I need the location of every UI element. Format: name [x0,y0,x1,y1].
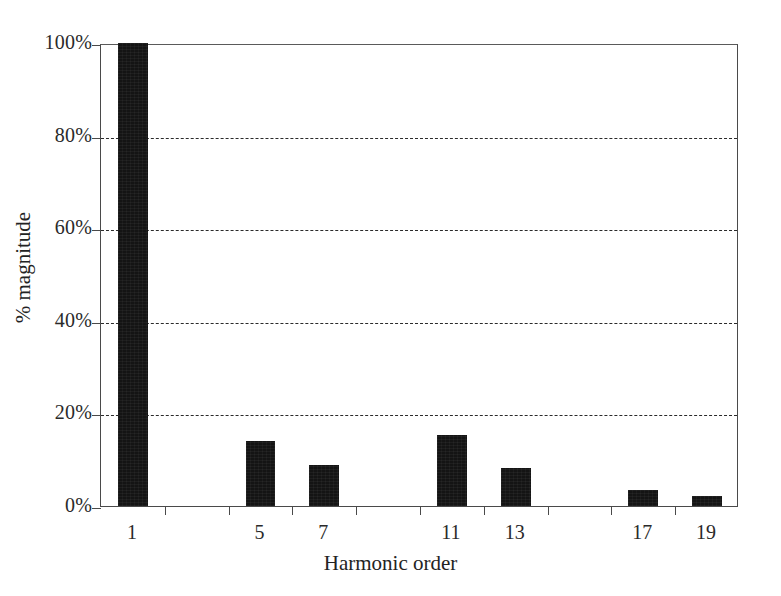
x-axis-tick-label: 19 [666,521,746,544]
x-axis-tick-label: 7 [283,521,363,544]
x-axis-title: Harmonic order [0,551,781,576]
x-axis-tick-labels: 15711131719 [0,0,781,596]
harmonic-spectrum-bar-chart: 0%20%40%60%80%100% 15711131719 Harmonic … [0,0,781,596]
y-axis-title: % magnitude [11,168,36,368]
x-axis-tick-label: 13 [475,521,555,544]
x-axis-tick-label: 1 [92,521,172,544]
